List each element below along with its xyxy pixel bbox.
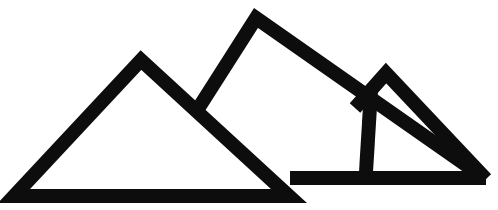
mountain-range-logo: Mountain Range Outline Icon Black line-a… xyxy=(0,0,498,210)
right-small-peak-inner-leg xyxy=(366,90,371,172)
icon-canvas: Mountain Range Outline Icon Black line-a… xyxy=(0,0,498,210)
